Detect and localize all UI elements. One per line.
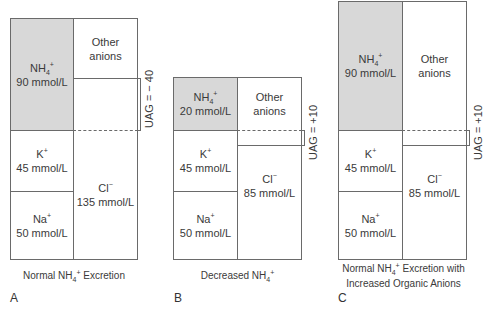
divider — [237, 145, 302, 146]
panel-caption: Normal NH4+ Excretion with Increased Org… — [318, 261, 489, 291]
other-anions-block: Other anions — [74, 19, 137, 78]
uag-label: UAG = − 40 — [143, 70, 155, 128]
divider — [73, 78, 138, 79]
uag-bracket — [302, 130, 305, 146]
divider — [338, 191, 402, 192]
divider — [338, 130, 402, 131]
other-anions-block: Other anions — [238, 78, 301, 130]
panel-letter: C — [338, 291, 347, 305]
divider — [173, 130, 237, 131]
uag-bracket — [467, 130, 470, 146]
divider — [73, 18, 74, 260]
divider — [10, 191, 73, 192]
divider — [237, 77, 238, 260]
k-block: K+ 45 mmol/L — [174, 131, 237, 191]
na-block: Na+ 50 mmol/L — [174, 192, 237, 259]
cl-block: Cl− 135 mmol/L — [74, 131, 137, 259]
k-block: K+ 45 mmol/L — [339, 131, 402, 191]
nh4-block: NH4+ 90 mmol/L — [339, 2, 402, 130]
nh4-block: NH4+ 20 mmol/L — [174, 78, 237, 130]
panel-caption: Normal NH4+ Excretion — [10, 268, 138, 283]
na-block: Na+ 50 mmol/L — [11, 192, 73, 259]
panel-caption: Decreased NH4+ — [173, 268, 302, 283]
panel-letter: B — [174, 291, 182, 305]
dashed-reference-line — [402, 130, 467, 131]
other-anions-block: Other anions — [403, 2, 466, 130]
cl-block: Cl− 85 mmol/L — [403, 146, 466, 226]
dashed-reference-line — [237, 130, 302, 131]
dashed-reference-line — [73, 130, 138, 131]
cl-block: Cl− 85 mmol/L — [238, 146, 301, 226]
divider — [10, 130, 73, 131]
uag-bracket — [138, 78, 141, 131]
nh4-block: NH4+ 90 mmol/L — [11, 19, 73, 130]
k-block: K+ 45 mmol/L — [11, 131, 73, 191]
panel-letter: A — [10, 291, 18, 305]
divider — [173, 191, 237, 192]
divider — [402, 145, 467, 146]
na-block: Na+ 50 mmol/L — [339, 192, 402, 259]
uag-label: UAG = +10 — [307, 105, 319, 160]
uag-label: UAG = +10 — [472, 105, 484, 160]
